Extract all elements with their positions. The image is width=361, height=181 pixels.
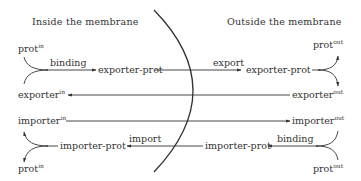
split-curve-prot-out [318,56,338,70]
label-prot-out-bottom: protout [313,162,344,174]
merge-curve-out-bottom [316,146,338,160]
membrane-transport-diagram: Inside the membrane Outside the membrane… [0,0,361,181]
heading-outside: Outside the membrane [227,16,342,27]
label-exporter-out: exporterout [292,88,344,100]
membrane-arc [154,10,193,172]
label-prot-in-top: protin [18,42,44,54]
merge-curve-out-top [316,131,338,146]
label-importer-prot-in: importer-prot [60,140,126,151]
label-exporter-in: exporterin [18,88,65,100]
label-exporter-prot-in: exporter-prot [98,64,163,75]
label-exporter-prot-out: exporter-prot [246,64,311,75]
label-importer-out: importerout [292,114,345,126]
heading-inside: Inside the membrane [32,16,139,27]
label-importer-in: importerin [18,114,66,126]
merge-curve-top [24,57,48,70]
label-prot-out-top: protout [313,38,344,50]
label-importer-prot-out: importer-prot [205,140,271,151]
label-prot-in-bottom: protin [18,162,44,174]
split-curve-importer-in [24,132,48,146]
reaction-binding-out: binding [277,133,314,144]
merge-curve-bottom [24,70,48,84]
reaction-binding-in: binding [50,57,87,68]
reaction-import: import [129,133,161,144]
reaction-export: export [213,57,244,68]
split-curve-exporter-out [318,70,338,86]
split-curve-prot-in [24,146,48,162]
